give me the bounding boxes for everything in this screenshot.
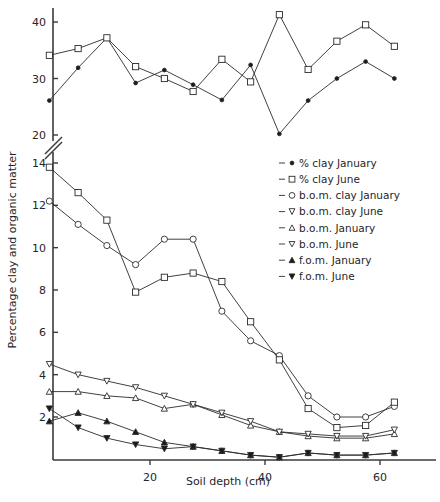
data-point-marker — [305, 405, 311, 411]
data-point-marker — [289, 176, 295, 182]
data-point-marker — [248, 338, 254, 344]
legend-label: f.o.m. January — [299, 254, 372, 266]
legend-item-3: b.o.m. clay June — [279, 205, 383, 217]
data-point-marker — [46, 52, 52, 58]
y-tick-label: 10 — [32, 242, 46, 255]
data-point-marker — [219, 278, 225, 284]
data-point-marker — [334, 414, 340, 420]
series-layer — [46, 12, 397, 461]
data-point-marker — [277, 132, 281, 136]
legend-label: % clay January — [299, 157, 377, 169]
data-point-marker — [391, 399, 397, 405]
data-point-marker — [46, 164, 52, 170]
data-point-marker — [75, 410, 81, 416]
x-tick-label: 20 — [143, 471, 157, 484]
line-chart: 4030201412108642204060Soil depth (cm)Per… — [0, 0, 440, 502]
data-point-marker — [334, 424, 340, 430]
data-point-marker — [363, 422, 369, 428]
data-point-marker — [104, 35, 110, 41]
legend-label: b.o.m. June — [299, 238, 358, 250]
y-tick-label: 14 — [32, 157, 46, 170]
data-point-marker — [306, 99, 310, 103]
data-point-marker — [75, 221, 81, 227]
data-point-marker — [391, 43, 397, 49]
series-3 — [46, 164, 397, 431]
legend-item-2: b.o.m. clay January — [279, 189, 400, 201]
data-point-marker — [191, 83, 195, 87]
y-axis-title: Percentage clay and organic matter — [6, 151, 19, 349]
data-point-marker — [248, 419, 254, 425]
legend-label: b.o.m. clay June — [299, 205, 383, 217]
series-polyline — [49, 364, 394, 436]
y-tick-label: 6 — [39, 326, 46, 339]
data-point-marker — [46, 361, 52, 367]
data-point-marker — [364, 60, 368, 64]
data-point-marker — [276, 357, 282, 363]
data-point-marker — [133, 64, 139, 70]
data-point-marker — [161, 75, 167, 81]
x-tick-label: 60 — [373, 471, 387, 484]
data-point-marker — [46, 198, 52, 204]
series-5 — [46, 361, 397, 439]
y-tick-label: 8 — [39, 284, 46, 297]
data-point-marker — [363, 414, 369, 420]
data-point-marker — [289, 274, 295, 279]
y-tick-label: 20 — [32, 129, 46, 142]
data-point-marker — [104, 217, 110, 223]
y-tick-label: 12 — [32, 199, 46, 212]
data-point-marker — [161, 439, 167, 445]
data-point-marker — [133, 429, 139, 435]
y-tick-label: 2 — [39, 411, 46, 424]
legend-item-0: % clay January — [279, 157, 377, 169]
data-point-marker — [134, 81, 138, 85]
data-point-marker — [289, 209, 295, 215]
y-tick-label: 30 — [32, 73, 46, 86]
data-point-marker — [392, 77, 396, 81]
data-point-marker — [133, 262, 139, 268]
y-tick-label: 40 — [32, 16, 46, 29]
data-point-marker — [162, 68, 166, 72]
series-1 — [46, 12, 397, 95]
data-point-marker — [190, 88, 196, 94]
legend-item-7: f.o.m. June — [279, 270, 355, 282]
data-point-marker — [75, 45, 81, 51]
data-point-marker — [161, 236, 167, 242]
legend-label: b.o.m. January — [299, 222, 375, 234]
data-point-marker — [220, 98, 224, 102]
data-point-marker — [46, 406, 52, 412]
data-point-marker — [219, 56, 225, 62]
series-0 — [47, 36, 396, 136]
data-point-marker — [75, 425, 81, 431]
data-point-marker — [104, 242, 110, 248]
data-point-marker — [219, 308, 225, 314]
data-point-marker — [290, 161, 294, 165]
legend-label: b.o.m. clay January — [299, 189, 400, 201]
legend-label: f.o.m. June — [299, 270, 355, 282]
data-point-marker — [190, 236, 196, 242]
data-point-marker — [305, 66, 311, 72]
data-point-marker — [133, 289, 139, 295]
data-point-marker — [161, 274, 167, 280]
data-point-marker — [335, 77, 339, 81]
data-point-marker — [276, 12, 282, 18]
legend-item-5: b.o.m. June — [279, 238, 358, 250]
data-point-marker — [249, 63, 253, 67]
data-point-marker — [305, 393, 311, 399]
series-polyline — [49, 38, 394, 134]
data-point-marker — [289, 257, 295, 262]
data-point-marker — [75, 190, 81, 196]
data-point-marker — [334, 38, 340, 44]
legend-item-6: f.o.m. January — [279, 254, 372, 266]
data-point-marker — [248, 319, 254, 325]
x-axis-title: Soil depth (cm) — [186, 475, 270, 488]
data-point-marker — [363, 22, 369, 28]
series-polyline — [49, 15, 394, 92]
data-point-marker — [76, 66, 80, 70]
data-point-marker — [47, 99, 51, 103]
data-point-marker — [289, 242, 295, 247]
chart-legend: % clay January% clay Juneb.o.m. clay Jan… — [279, 157, 400, 282]
legend-item-4: b.o.m. January — [279, 222, 375, 234]
data-point-marker — [190, 270, 196, 276]
legend-label: % clay June — [299, 173, 360, 185]
figure-root: 4030201412108642204060Soil depth (cm)Per… — [0, 0, 440, 502]
